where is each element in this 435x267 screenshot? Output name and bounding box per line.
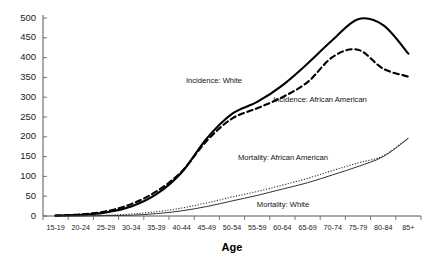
y-tick-label: 200: [20, 130, 36, 141]
y-tick-label: 500: [20, 12, 36, 23]
y-tick-label: 350: [20, 71, 36, 82]
x-tick-label: 65-69: [298, 223, 316, 232]
series-annotation-mortality-white: Mortality: White: [257, 200, 309, 209]
series-line-mortality-african-american: [56, 138, 409, 216]
x-tick-label: 45-49: [198, 223, 216, 232]
x-tick-label: 70-74: [324, 223, 342, 232]
series-annotation-incidence-white: Incidence: White: [186, 76, 242, 85]
series-line-incidence-white: [56, 18, 409, 215]
series-line-mortality-white: [56, 138, 409, 216]
x-tick-label: 50-54: [223, 223, 241, 232]
chart-container: 050100150200250300350400450500 15-1920-2…: [0, 0, 435, 267]
x-tick-label: 80-84: [374, 223, 392, 232]
y-tick-label: 400: [20, 51, 36, 62]
y-tick-label: 0: [31, 210, 36, 221]
series-line-incidence-african-american: [56, 49, 409, 215]
x-axis-tick-labels: 15-1920-2425-2930-3435-3940-4445-4950-54…: [46, 223, 414, 232]
x-tick-label: 25-29: [97, 223, 115, 232]
y-axis-tick-labels: 050100150200250300350400450500: [20, 12, 36, 221]
x-tick-label: 55-59: [248, 223, 266, 232]
y-tick-label: 150: [20, 150, 36, 161]
x-tick-label: 85+: [402, 223, 414, 232]
x-axis-title: Age: [222, 241, 243, 253]
y-tick-label: 100: [20, 170, 36, 181]
series-annotations: Incidence: WhiteIncidence: African Ameri…: [186, 76, 367, 209]
x-tick-label: 40-44: [172, 223, 190, 232]
y-tick-label: 450: [20, 31, 36, 42]
series-annotation-mortality-african-american: Mortality: African American: [238, 153, 328, 162]
x-tick-label: 20-24: [72, 223, 90, 232]
x-tick-label: 75-79: [349, 223, 367, 232]
y-tick-label: 300: [20, 91, 36, 102]
line-chart: 050100150200250300350400450500 15-1920-2…: [0, 0, 435, 267]
data-series-group: [56, 18, 409, 216]
x-tick-label: 15-19: [46, 223, 64, 232]
x-tick-label: 60-64: [273, 223, 291, 232]
x-tick-label: 30-34: [122, 223, 140, 232]
x-axis-tick-marks: [43, 216, 421, 220]
y-tick-label: 50: [25, 190, 36, 201]
series-annotation-incidence-african-american: Incidence: African American: [273, 95, 367, 104]
x-tick-label: 35-39: [147, 223, 165, 232]
y-axis-tick-marks: [43, 18, 47, 216]
y-tick-label: 250: [20, 111, 36, 122]
